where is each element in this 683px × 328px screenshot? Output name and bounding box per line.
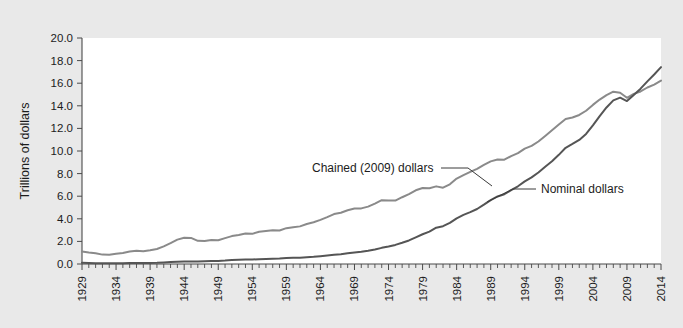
x-tick-label: 2004 — [587, 275, 599, 301]
x-tick-label: 1954 — [246, 275, 258, 301]
x-tick-label: 1969 — [348, 276, 360, 302]
x-tick-label: 1979 — [417, 276, 429, 302]
chained-series-annotation: Chained (2009) dollars — [312, 161, 433, 175]
x-tick-label: 1964 — [314, 275, 326, 301]
x-tick-label: 1974 — [383, 275, 395, 301]
y-tick-label: 14.0 — [51, 100, 73, 112]
y-tick-label: 16.0 — [51, 77, 73, 89]
y-tick-label: 12.0 — [51, 122, 73, 134]
chart-figure: 0.02.04.06.08.010.012.014.016.018.020.0T… — [0, 0, 683, 328]
y-tick-label: 4.0 — [57, 213, 73, 225]
x-tick-label: 2009 — [621, 276, 633, 302]
y-tick-label: 18.0 — [51, 55, 73, 67]
x-tick-label: 1989 — [485, 276, 497, 302]
y-tick-label: 2.0 — [57, 235, 73, 247]
x-tick-label: 1929 — [76, 276, 88, 302]
y-tick-label: 8.0 — [57, 168, 73, 180]
x-tick-label: 1949 — [212, 276, 224, 302]
plot-area-background — [82, 38, 661, 264]
y-tick-label: 20.0 — [51, 32, 73, 44]
x-tick-label: 1994 — [519, 275, 531, 301]
y-tick-label: 10.0 — [51, 145, 73, 157]
x-tick-label: 2014 — [655, 275, 667, 301]
nominal-series-annotation: Nominal dollars — [541, 182, 624, 196]
x-tick-label: 1999 — [553, 276, 565, 302]
x-tick-label: 1944 — [178, 275, 190, 301]
x-tick-label: 1984 — [451, 275, 463, 301]
x-tick-label: 1939 — [144, 276, 156, 302]
x-tick-label: 1959 — [280, 276, 292, 302]
y-axis-title: Trillions of dollars — [18, 103, 32, 200]
gdp-line-chart: 0.02.04.06.08.010.012.014.016.018.020.0T… — [0, 0, 683, 328]
y-tick-label: 6.0 — [57, 190, 73, 202]
y-tick-label: 0.0 — [57, 258, 73, 270]
x-tick-label: 1934 — [110, 275, 122, 301]
